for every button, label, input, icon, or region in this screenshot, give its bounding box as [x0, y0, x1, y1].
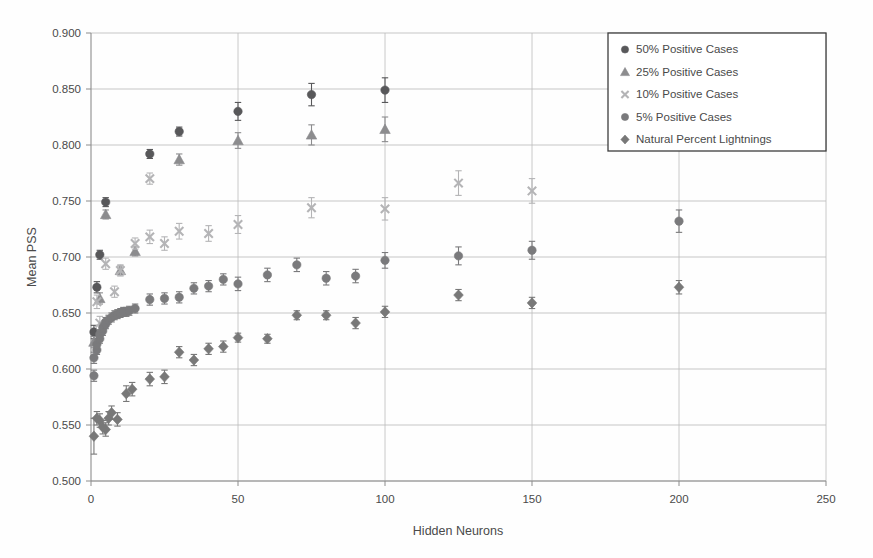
- legend-entry[interactable]: 25% Positive Cases: [621, 66, 739, 78]
- data-point-marker: [293, 261, 301, 269]
- data-point-marker: [93, 283, 101, 291]
- data-point-marker: [621, 46, 628, 53]
- legend-entry[interactable]: 5% Positive Cases: [621, 111, 732, 123]
- x-tick-label: 50: [232, 493, 245, 505]
- data-point-marker: [146, 295, 154, 303]
- legend-entry-label: Natural Percent Lightnings: [636, 133, 772, 145]
- data-point-marker: [90, 372, 98, 380]
- y-tick-label: 0.750: [52, 195, 81, 207]
- data-point-marker: [234, 280, 242, 288]
- y-tick-label: 0.850: [52, 83, 81, 95]
- data-point-marker: [528, 246, 536, 254]
- legend-entry[interactable]: 50% Positive Cases: [621, 43, 738, 55]
- data-point-marker: [307, 90, 315, 98]
- data-point-marker: [160, 294, 168, 302]
- x-tick-label: 0: [88, 493, 94, 505]
- legend-entry[interactable]: Natural Percent Lightnings: [621, 133, 772, 145]
- data-point-marker: [219, 275, 227, 283]
- data-point-marker: [351, 272, 359, 280]
- y-tick-label: 0.700: [52, 251, 81, 263]
- y-tick-label: 0.650: [52, 307, 81, 319]
- y-tick-label: 0.600: [52, 363, 81, 375]
- data-point-marker: [234, 107, 242, 115]
- y-tick-label: 0.800: [52, 139, 81, 151]
- x-tick-label: 250: [816, 493, 835, 505]
- y-tick-label: 0.500: [52, 475, 81, 487]
- data-point-marker: [190, 284, 198, 292]
- scatter-plot-figure: 0.5000.5500.6000.6500.7000.7500.8000.850…: [0, 0, 873, 558]
- legend: 50% Positive Cases25% Positive Cases10% …: [608, 33, 826, 151]
- y-axis-label: Mean PSS: [25, 227, 39, 287]
- data-point-marker: [381, 86, 389, 94]
- data-point-marker: [675, 217, 683, 225]
- legend-entry-label: 50% Positive Cases: [636, 43, 739, 55]
- data-point-marker: [131, 304, 139, 312]
- data-point-marker: [621, 113, 628, 120]
- y-tick-label: 0.900: [52, 27, 81, 39]
- data-point-marker: [146, 150, 154, 158]
- data-point-marker: [175, 127, 183, 135]
- data-point-marker: [175, 293, 183, 301]
- x-axis-label: Hidden Neurons: [413, 524, 503, 538]
- x-tick-label: 200: [669, 493, 688, 505]
- x-tick-label: 100: [375, 493, 394, 505]
- y-tick-label: 0.550: [52, 419, 81, 431]
- data-point-marker: [204, 282, 212, 290]
- data-point-marker: [322, 274, 330, 282]
- legend-entry-label: 5% Positive Cases: [636, 111, 732, 123]
- data-point-marker: [102, 198, 110, 206]
- data-point-marker: [263, 271, 271, 279]
- x-tick-label: 150: [522, 493, 541, 505]
- legend-entry-label: 10% Positive Cases: [636, 88, 739, 100]
- data-point-marker: [454, 252, 462, 260]
- chart-canvas: 0.5000.5500.6000.6500.7000.7500.8000.850…: [0, 0, 873, 558]
- legend-entry-label: 25% Positive Cases: [636, 66, 739, 78]
- data-point-marker: [381, 256, 389, 264]
- legend-entry[interactable]: 10% Positive Cases: [621, 88, 738, 100]
